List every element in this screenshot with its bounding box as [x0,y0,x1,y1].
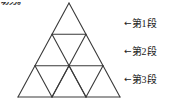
left-arrow-icon-3: ← [124,74,132,85]
segment-label-1: ←第1段 [124,18,157,29]
outer-triangle-right-edge [69,3,120,97]
row3-diagonal-left-b [69,66,86,97]
segment-label-2-text: 第2段 [132,46,157,57]
row3-diagonal-right-a [52,66,69,97]
triangle-outline-group [18,3,120,97]
segment-label-1-text: 第1段 [132,18,157,29]
left-arrow-icon-1: ← [124,18,132,29]
segment-label-3: ←第3段 [124,74,157,85]
row3-diagonal-left-a [35,66,52,97]
figure-panel: 切分。 ←第1段 ←第2段 ←第3段 [0,0,175,102]
row3-diagonal-right-b [86,66,103,97]
segment-label-3-text: 第3段 [132,74,157,85]
left-arrow-icon-2: ← [124,46,132,57]
segment-label-2: ←第2段 [124,46,157,57]
outer-triangle-left-edge [18,3,69,97]
